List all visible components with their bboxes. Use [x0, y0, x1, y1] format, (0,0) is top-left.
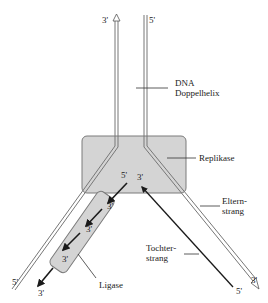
- elternstrang-label-2: strang: [222, 206, 244, 216]
- doppelhelix-label: Doppelhelix: [175, 88, 220, 98]
- dna-label: DNA: [175, 78, 195, 88]
- leading-daughter-strand: [142, 187, 233, 287]
- end-bottom-left-parent: 5': [12, 277, 19, 287]
- replikase-label: Replikase: [199, 153, 235, 163]
- ligase-label: Ligase: [99, 280, 123, 290]
- end-okazaki-2: 3': [86, 224, 93, 234]
- ligase-leader: [78, 254, 96, 278]
- end-fork-right-inner: 3': [137, 172, 144, 182]
- replication-fork-diagram: DNA Doppelhelix Replikase Eltern- strang…: [0, 0, 268, 303]
- end-top-right: 5': [149, 15, 156, 25]
- end-bottom-left-daughter: 3': [38, 288, 45, 298]
- end-bottom-right-daughter: 5': [236, 286, 243, 296]
- tochterstrang-label-2: strang: [146, 253, 168, 263]
- tochterstrang-label-1: Tochter-: [146, 243, 176, 253]
- end-okazaki-1: 3': [107, 201, 114, 211]
- replikase-enzyme: [82, 136, 186, 193]
- ligase-box: [48, 189, 116, 274]
- elternstrang-label-1: Eltern-: [222, 196, 247, 206]
- end-okazaki-3: 3': [62, 254, 69, 264]
- end-bottom-right-parent: 3': [251, 275, 258, 285]
- end-top-left: 3': [102, 15, 109, 25]
- top-left-arrowhead: [113, 14, 120, 21]
- end-fork-left-inner: 5': [121, 170, 128, 180]
